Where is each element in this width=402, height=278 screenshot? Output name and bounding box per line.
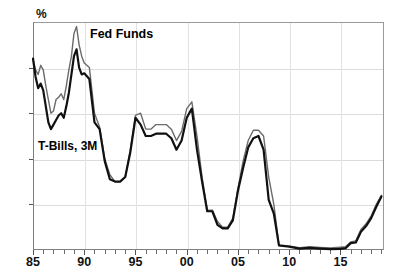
gridline-vertical	[136, 23, 137, 249]
series-label-fed-funds: Fed Funds	[90, 27, 153, 41]
x-axis-tick-mark-minor	[320, 250, 321, 254]
gridline-horizontal	[34, 69, 383, 70]
gridline-horizontal	[34, 114, 383, 115]
x-axis-tick-label: 05	[223, 256, 253, 269]
x-axis-tick-mark-minor	[64, 250, 65, 254]
gridline-vertical	[239, 23, 240, 249]
x-axis-tick-mark-minor	[371, 250, 372, 254]
x-axis-tick-mark-minor	[156, 250, 157, 254]
series-label-tbills: T-Bills, 3M	[38, 139, 97, 153]
x-axis-tick-mark-minor	[258, 250, 259, 254]
chart-container: % 0246810 85909500051015 Fed Funds T-Bil…	[0, 0, 402, 278]
x-axis-tick-mark-minor	[279, 250, 280, 254]
gridline-vertical	[341, 23, 342, 249]
x-axis-tick-mark-minor	[248, 250, 249, 254]
x-axis-tick-mark-minor	[166, 250, 167, 254]
x-axis-tick-mark-minor	[53, 250, 54, 254]
x-axis-tick-mark-minor	[74, 250, 75, 254]
x-axis-tick-mark-minor	[228, 250, 229, 254]
y-axis-tick-mark	[29, 204, 33, 205]
gridline-vertical	[188, 23, 189, 249]
x-axis-tick-mark-minor	[381, 250, 382, 254]
x-axis-tick-mark-minor	[217, 250, 218, 254]
x-axis-tick-mark-minor	[43, 250, 44, 254]
x-axis-tick-label: 85	[18, 256, 48, 269]
x-axis-tick-mark-minor	[94, 250, 95, 254]
x-axis-tick-mark-minor	[299, 250, 300, 254]
y-axis-tick-mark	[29, 68, 33, 69]
x-axis-tick-mark-minor	[115, 250, 116, 254]
x-axis-tick-mark-minor	[125, 250, 126, 254]
plot-area	[33, 22, 384, 250]
gridline-horizontal	[34, 205, 383, 206]
gridline-horizontal	[34, 160, 383, 161]
x-axis-tick-label: 95	[120, 256, 150, 269]
y-axis-tick-mark	[29, 159, 33, 160]
x-axis-tick-label: 00	[172, 256, 202, 269]
x-axis-tick-mark-minor	[310, 250, 311, 254]
x-axis-tick-mark-minor	[176, 250, 177, 254]
x-axis-tick-label: 10	[274, 256, 304, 269]
x-axis-tick-mark-minor	[197, 250, 198, 254]
x-axis-tick-mark-minor	[105, 250, 106, 254]
x-axis-tick-mark-minor	[146, 250, 147, 254]
x-axis-tick-mark-minor	[207, 250, 208, 254]
x-axis-tick-mark-minor	[361, 250, 362, 254]
x-axis-tick-mark-minor	[330, 250, 331, 254]
x-axis-tick-mark-minor	[269, 250, 270, 254]
y-axis-tick-mark	[29, 113, 33, 114]
x-axis-tick-label: 15	[325, 256, 355, 269]
gridline-vertical	[85, 23, 86, 249]
gridline-vertical	[290, 23, 291, 249]
x-axis-tick-label: 90	[69, 256, 99, 269]
y-axis-unit-label: %	[36, 8, 47, 20]
x-axis-tick-mark-minor	[351, 250, 352, 254]
